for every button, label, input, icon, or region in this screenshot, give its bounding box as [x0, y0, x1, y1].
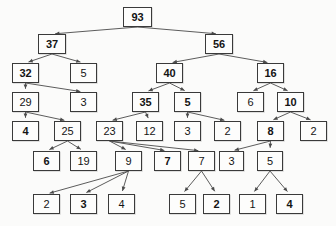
tree-edge-arrowhead [86, 189, 91, 193]
tree-node: 6 [237, 92, 264, 112]
tree-node: 40 [156, 63, 183, 83]
tree-node: 5 [169, 194, 196, 214]
tree-node: 4 [276, 194, 303, 214]
tree-node-value: 5 [267, 155, 273, 166]
tree-node-value: 3 [81, 198, 87, 209]
tree-edge-arrowhead [122, 186, 126, 191]
tree-edge-arrowhead [186, 114, 190, 118]
tree-node: 23 [96, 121, 123, 141]
tree-node: 29 [12, 92, 39, 112]
tree-edge-arrowhead [180, 87, 185, 91]
tree-edge [188, 112, 225, 121]
tree-node: 2 [203, 194, 230, 214]
tree-node: 5 [257, 151, 283, 171]
tree-node-value: 25 [62, 125, 74, 136]
tree-node-value: 5 [185, 96, 191, 107]
tree-edge [185, 171, 202, 192]
tree-node: 3 [219, 151, 244, 171]
tree-node: 5 [70, 63, 97, 83]
tree-edge [254, 171, 270, 191]
tree-edge-arrowhead [29, 59, 34, 63]
tree-node: 19 [70, 151, 97, 171]
tree-node: 1 [239, 194, 266, 214]
tree-edge [235, 141, 271, 151]
tree-node: 9 [115, 151, 142, 171]
tree-edge [26, 112, 65, 121]
tree-edge [268, 141, 272, 148]
tree-edge-arrowhead [148, 88, 153, 92]
tree-edge [24, 83, 28, 89]
tree-node-value: 4 [119, 198, 125, 209]
tree-node: 6 [33, 151, 60, 171]
tree-node-value: 2 [214, 198, 220, 209]
tree-node: 12 [136, 121, 163, 141]
tree-node: 37 [38, 34, 66, 54]
tree-edge [170, 83, 185, 91]
tree-edge [86, 171, 128, 193]
tree-node: 5 [174, 92, 201, 112]
tree-edge [186, 112, 190, 118]
tree-edge [253, 83, 270, 91]
tree-node-value: 3 [81, 96, 87, 107]
tree-node: 4 [12, 121, 39, 141]
tree-node-value: 93 [132, 11, 144, 22]
tree-node-value: 4 [23, 125, 29, 136]
tree-node: 3 [174, 121, 201, 141]
tree-node-value: 5 [81, 67, 87, 78]
tree-node-value: 9 [126, 155, 132, 166]
tree-node-value: 2 [225, 125, 231, 136]
tree-node: 56 [205, 34, 233, 54]
tree-node-value: 16 [265, 67, 277, 78]
tree-node-value: 3 [185, 125, 191, 136]
tree-edge-arrowhead [283, 87, 288, 90]
tree-edge-arrowhead [76, 145, 81, 149]
tree-edge [52, 54, 80, 63]
tree-node: 4 [108, 194, 135, 214]
tree-diagram-canvas: 9337563254016293355610425231232826199773… [0, 0, 336, 226]
tree-edge [24, 112, 28, 118]
tree-edge [273, 112, 290, 120]
tree-edge-arrowhead [145, 113, 148, 118]
tree-node: 25 [54, 121, 81, 141]
tree-edge [270, 171, 287, 192]
tree-node-value: 37 [46, 38, 58, 49]
tree-edge [148, 83, 169, 91]
tree-node-value: 7 [199, 155, 205, 166]
tree-node: 7 [154, 151, 181, 171]
tree-node-value: 56 [213, 38, 225, 49]
tree-node: 3 [70, 92, 97, 112]
tree-edge [145, 112, 148, 118]
tree-node: 35 [132, 92, 159, 112]
tree-edge-arrowhead [254, 187, 258, 191]
tree-node-value: 6 [248, 96, 254, 107]
tree-edge [291, 112, 311, 120]
tree-node: 2 [214, 121, 241, 141]
tree-node-value: 1 [250, 198, 256, 209]
tree-node-value: 10 [285, 96, 297, 107]
tree-edge-arrowhead [185, 187, 189, 191]
tree-node-value: 32 [20, 67, 32, 78]
tree-edge-arrowhead [268, 144, 272, 148]
tree-edge [29, 54, 52, 62]
tree-node-value: 35 [140, 96, 152, 107]
tree-edge-arrowhead [273, 116, 278, 119]
tree-node: 10 [277, 92, 304, 112]
tree-node-value: 2 [44, 198, 50, 209]
tree-node-value: 3 [229, 155, 235, 166]
tree-node: 3 [70, 194, 97, 214]
tree-edge [68, 141, 81, 149]
tree-node-value: 29 [20, 96, 32, 107]
tree-edge-arrowhead [211, 187, 215, 192]
tree-edge-arrowhead [253, 87, 258, 90]
tree-edge-arrowhead [49, 146, 54, 150]
tree-edge [55, 27, 137, 35]
tree-node-value: 2 [311, 125, 317, 136]
tree-edge-arrowhead [283, 187, 287, 191]
tree-node-value: 12 [144, 125, 156, 136]
tree-node: 7 [188, 151, 215, 171]
tree-edge [113, 112, 146, 121]
tree-edge [110, 141, 126, 150]
tree-node-value: 23 [104, 125, 116, 136]
tree-node-value: 4 [287, 198, 293, 209]
tree-node: 16 [257, 63, 284, 83]
